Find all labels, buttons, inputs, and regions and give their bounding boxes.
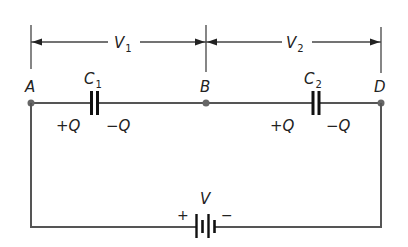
capacitor-c1	[92, 91, 98, 115]
battery-voltage-label: V	[200, 190, 212, 208]
c1-minus-charge: −Q	[106, 117, 131, 135]
capacitor-c2	[313, 91, 319, 115]
v1-arrow-left-icon	[32, 39, 42, 46]
battery-icon	[197, 214, 215, 238]
node-b-dot	[203, 100, 210, 107]
v2-arrow-left-icon	[207, 39, 217, 46]
node-d-label: D	[374, 78, 386, 96]
node-b-label: B	[200, 78, 210, 96]
series-capacitor-circuit-diagram: V1 V2 C1 +Q −Q C2 +Q −Q A B D	[0, 0, 408, 247]
c1-label: C1	[84, 70, 102, 90]
v1-arrow-right-icon	[195, 39, 205, 46]
c1-plus-charge: +Q	[56, 117, 81, 135]
battery-minus-sign: −	[221, 207, 233, 223]
c2-label: C2	[304, 70, 322, 90]
voltage-dimension-lines	[31, 25, 381, 73]
c2-minus-charge: −Q	[326, 117, 351, 135]
c2-plus-charge: +Q	[270, 117, 295, 135]
node-a-label: A	[24, 78, 35, 96]
v1-label: V1	[114, 34, 132, 54]
v2-arrow-right-icon	[370, 39, 380, 46]
battery-plus-sign: +	[177, 207, 189, 223]
v2-label: V2	[286, 34, 304, 54]
